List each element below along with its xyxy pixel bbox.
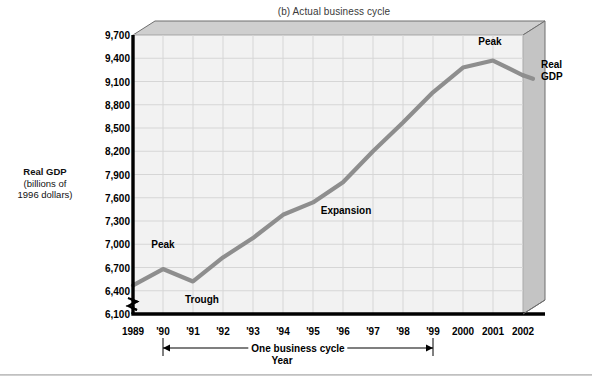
x-tick-label: 1989 xyxy=(122,326,144,337)
x-tick-label: 2002 xyxy=(512,326,534,337)
x-axis-title: Year xyxy=(0,355,592,366)
y-axis-tick-labels: 6,1006,4006,7007,0007,3007,6007,9008,200… xyxy=(84,30,130,310)
y-tick-label: 9,700 xyxy=(84,30,130,41)
annotation-expansion: Expansion xyxy=(321,205,372,216)
x-tick-label: '91 xyxy=(186,326,200,337)
x-tick-label: '90 xyxy=(156,326,170,337)
y-tick-label: 8,200 xyxy=(84,146,130,157)
business-cycle-figure: (b) Actual business cycle Real GDP (bill… xyxy=(0,0,592,387)
x-axis-tick-labels: 1989'90'91'92'93'94'95'96'97'98'99200020… xyxy=(0,326,592,340)
y-tick-label: 6,700 xyxy=(84,262,130,273)
y-tick-label: 7,600 xyxy=(84,192,130,203)
x-tick-label: '92 xyxy=(216,326,230,337)
x-tick-label: '99 xyxy=(426,326,440,337)
annotation-trough-1991: Trough xyxy=(185,293,219,304)
y-tick-label: 7,300 xyxy=(84,216,130,227)
annotation-peak-1990: Peak xyxy=(151,239,174,250)
y-tick-label: 7,000 xyxy=(84,239,130,250)
x-tick-label: '96 xyxy=(336,326,350,337)
y-tick-label: 6,400 xyxy=(84,285,130,296)
y-tick-label: 7,900 xyxy=(84,169,130,180)
annotation-peak-2001: Peak xyxy=(478,36,501,47)
x-tick-label: '95 xyxy=(306,326,320,337)
y-tick-label: 6,100 xyxy=(84,309,130,320)
x-tick-label: 2000 xyxy=(452,326,474,337)
y-tick-label: 9,400 xyxy=(84,53,130,64)
x-tick-label: '94 xyxy=(276,326,290,337)
cycle-bracket-label: One business cycle xyxy=(248,343,347,354)
y-tick-label: 8,800 xyxy=(84,99,130,110)
y-tick-label: 9,100 xyxy=(84,76,130,87)
x-tick-label: 2001 xyxy=(482,326,504,337)
y-tick-label: 8,500 xyxy=(84,123,130,134)
annotation-series-label-real-gdp: RealGDP xyxy=(541,59,563,83)
x-tick-label: '93 xyxy=(246,326,260,337)
figure-bottom-rule xyxy=(0,374,592,376)
x-axis-title-text: Year xyxy=(271,355,292,366)
x-tick-label: '97 xyxy=(366,326,380,337)
x-tick-label: '98 xyxy=(396,326,410,337)
